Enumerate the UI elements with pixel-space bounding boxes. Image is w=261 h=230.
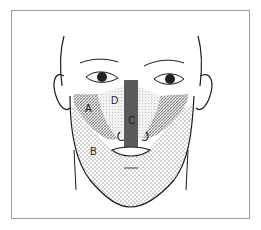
face-diagram: A B C D <box>0 0 261 230</box>
label-a: A <box>85 103 92 114</box>
left-ear <box>54 75 70 110</box>
left-pupil <box>97 72 107 82</box>
right-pupil <box>165 74 175 84</box>
right-ear <box>196 75 212 110</box>
label-b: B <box>90 146 97 157</box>
left-eyebrow <box>80 59 118 63</box>
label-d: D <box>111 95 118 106</box>
right-eyebrow <box>144 60 184 66</box>
label-c: C <box>128 115 135 126</box>
